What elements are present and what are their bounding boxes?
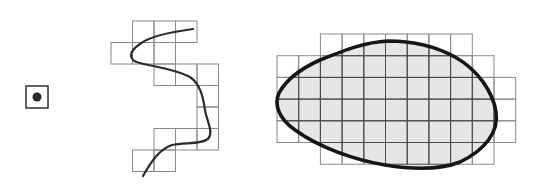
line-raster-cell (111, 43, 133, 65)
point-feature (33, 93, 42, 102)
polygon-raster-cell (494, 77, 516, 99)
polygon-inner-cell (494, 77, 516, 99)
line-raster-cell (176, 129, 198, 151)
polygon-raster-cell (451, 34, 473, 56)
line-feature (131, 29, 210, 176)
polygon-inner-cell (451, 34, 473, 56)
line-raster-cell (133, 150, 155, 172)
line-raster-cell (197, 64, 219, 86)
line-raster-cell (154, 129, 176, 151)
rasterization-diagram (0, 0, 534, 191)
polygon-feature-fill (277, 41, 496, 168)
point-raster (26, 86, 48, 108)
line-raster-cell (154, 150, 176, 172)
line-raster-cell (154, 43, 176, 65)
